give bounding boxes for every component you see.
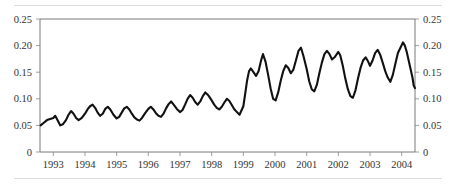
year-axis-tick-label: 2002 [328, 159, 349, 170]
left-axis-tick-label: 0.25 [14, 14, 32, 25]
line-chart-svg: 00.050.100.150.200.25 00.050.100.150.200… [0, 0, 456, 187]
year-axis-tick-label: 1997 [169, 159, 190, 170]
left-axis-tick-label: 0.20 [14, 40, 32, 51]
year-axis-tick-label: 2004 [391, 159, 413, 170]
year-axis-tick-label: 1999 [233, 159, 254, 170]
right-axis-tick-label: 0.10 [423, 93, 441, 104]
left-axis-tick-label: 0.05 [14, 120, 32, 131]
data-series-line [41, 42, 415, 125]
year-axis-tick-label: 1995 [106, 159, 127, 170]
figure-container: 00.050.100.150.200.25 00.050.100.150.200… [0, 0, 456, 187]
left-value-axis: 00.050.100.150.200.25 [14, 14, 40, 158]
right-value-axis: 00.050.100.150.200.25 [415, 14, 441, 158]
left-axis-tick-label: 0 [27, 147, 32, 158]
right-axis-tick-label: 0 [423, 147, 428, 158]
left-axis-tick-label: 0.15 [14, 67, 32, 78]
year-axis-tick-label: 1994 [74, 159, 96, 170]
right-axis-tick-label: 0.15 [423, 67, 441, 78]
year-axis: 1993199419951996199719981999200020012002… [43, 152, 413, 170]
plot-frame-border [40, 19, 415, 152]
year-axis-tick-label: 2001 [296, 159, 317, 170]
year-axis-tick-label: 2003 [360, 159, 381, 170]
year-axis-tick-label: 1998 [201, 159, 222, 170]
year-axis-tick-label: 1996 [138, 159, 159, 170]
right-axis-tick-label: 0.25 [423, 14, 441, 25]
year-axis-tick-label: 2000 [265, 159, 286, 170]
right-axis-tick-label: 0.05 [423, 120, 441, 131]
left-axis-tick-label: 0.10 [14, 93, 32, 104]
year-axis-tick-label: 1993 [43, 159, 64, 170]
right-axis-tick-label: 0.20 [423, 40, 441, 51]
